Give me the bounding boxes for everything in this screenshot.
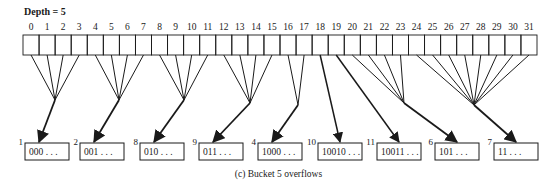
directory-indices: 0123456789101112131415161718192021222324… bbox=[29, 22, 534, 32]
directory-cell bbox=[168, 35, 184, 55]
directory-cell bbox=[344, 35, 360, 55]
cell-index: 28 bbox=[476, 22, 486, 32]
directory-cell bbox=[152, 35, 168, 55]
cell-index: 12 bbox=[219, 22, 229, 32]
directory-cell bbox=[135, 35, 151, 55]
pointer-line bbox=[288, 55, 298, 105]
cell-index: 26 bbox=[444, 22, 454, 32]
cell-index: 2 bbox=[61, 22, 66, 32]
directory-cell bbox=[232, 35, 248, 55]
pointer-line bbox=[119, 55, 143, 100]
bucket-prefix: 000 . . . bbox=[29, 147, 58, 157]
directory-cell bbox=[457, 35, 473, 55]
cell-index: 25 bbox=[428, 22, 438, 32]
bucket-arrow bbox=[272, 105, 298, 142]
directory-cell bbox=[376, 35, 392, 55]
bucket-prefix: 10011 . . . bbox=[381, 147, 419, 157]
directory-cell bbox=[360, 35, 376, 55]
bucket-prefix: 11 . . . bbox=[498, 147, 521, 157]
cell-index: 29 bbox=[492, 22, 502, 32]
cell-index: 14 bbox=[251, 22, 261, 32]
bucket-number: 9 bbox=[193, 137, 198, 147]
bucket-number: 10 bbox=[307, 137, 317, 147]
directory-cell bbox=[71, 35, 87, 55]
directory-cell bbox=[216, 35, 232, 55]
cell-index: 4 bbox=[93, 22, 98, 32]
bucket-prefix: 101 . . . bbox=[439, 147, 468, 157]
pointer-line bbox=[240, 55, 250, 103]
extendible-hashing-diagram: 0123456789101112131415161718192021222324… bbox=[0, 0, 557, 185]
cell-index: 8 bbox=[157, 22, 162, 32]
directory-cell bbox=[264, 35, 280, 55]
directory-cell bbox=[39, 35, 55, 55]
pointer-line bbox=[352, 55, 404, 103]
cell-index: 5 bbox=[109, 22, 114, 32]
bucket-arrow bbox=[154, 100, 184, 142]
bucket-arrow bbox=[213, 103, 250, 142]
directory-cell bbox=[521, 35, 537, 55]
bucket-number: 4 bbox=[252, 137, 257, 147]
pointer-line bbox=[449, 55, 474, 105]
pointer-line bbox=[160, 55, 184, 100]
directory-array bbox=[23, 35, 537, 55]
cell-index: 30 bbox=[508, 22, 518, 32]
directory-cell bbox=[409, 35, 425, 55]
cell-index: 11 bbox=[203, 22, 212, 32]
figure-caption: (c) Bucket 5 overflows bbox=[0, 169, 557, 179]
cell-index: 6 bbox=[125, 22, 130, 32]
pointer-line bbox=[433, 55, 474, 105]
directory-cell bbox=[200, 35, 216, 55]
bucket-prefix: 001 . . . bbox=[84, 147, 113, 157]
cell-index: 15 bbox=[267, 22, 277, 32]
directory-cell bbox=[296, 35, 312, 55]
cell-index: 18 bbox=[315, 22, 325, 32]
cell-index: 31 bbox=[524, 22, 534, 32]
directory-cell bbox=[473, 35, 489, 55]
directory-cell bbox=[184, 35, 200, 55]
directory-cell bbox=[280, 35, 296, 55]
pointer-line bbox=[368, 55, 404, 103]
directory-cell bbox=[119, 35, 135, 55]
bucket-arrow bbox=[474, 105, 516, 142]
directory-cell bbox=[103, 35, 119, 55]
directory-cell bbox=[505, 35, 521, 55]
cell-index: 23 bbox=[396, 22, 406, 32]
cell-index: 9 bbox=[173, 22, 178, 32]
bucket-prefix: 010 . . . bbox=[144, 147, 173, 157]
directory-cell bbox=[392, 35, 408, 55]
cell-index: 7 bbox=[141, 22, 146, 32]
bucket-prefix: 011 . . . bbox=[203, 147, 231, 157]
cell-index: 17 bbox=[299, 22, 309, 32]
directory-cell bbox=[425, 35, 441, 55]
cell-index: 16 bbox=[283, 22, 293, 32]
directory-cell bbox=[55, 35, 71, 55]
pointer-line bbox=[224, 55, 250, 103]
bucket-prefix: 1000 . . . bbox=[262, 147, 295, 157]
bucket-group: 000 . . .1001 . . .2010 . . .8011 . . .9… bbox=[19, 137, 539, 160]
bucket-arrow bbox=[320, 55, 340, 142]
bucket-number: 6 bbox=[429, 137, 434, 147]
directory-cell bbox=[248, 35, 264, 55]
directory-cell bbox=[312, 35, 328, 55]
cell-index: 24 bbox=[412, 22, 422, 32]
bucket-number: 11 bbox=[366, 137, 375, 147]
bucket-number: 2 bbox=[74, 137, 79, 147]
bucket-arrow bbox=[94, 100, 119, 142]
cell-index: 1 bbox=[45, 22, 50, 32]
bucket-number: 8 bbox=[134, 137, 139, 147]
directory-cell bbox=[489, 35, 505, 55]
directory-cell bbox=[23, 35, 39, 55]
bucket-number: 1 bbox=[19, 137, 24, 147]
directory-cell bbox=[87, 35, 103, 55]
bucket-number: 7 bbox=[488, 137, 493, 147]
bucket-prefix: 10010 . . . bbox=[322, 147, 360, 157]
cell-index: 27 bbox=[460, 22, 470, 32]
pointer-line bbox=[298, 55, 304, 105]
cell-index: 20 bbox=[348, 22, 358, 32]
cell-index: 22 bbox=[380, 22, 390, 32]
cell-index: 10 bbox=[187, 22, 197, 32]
cell-index: 21 bbox=[364, 22, 374, 32]
cell-index: 13 bbox=[235, 22, 245, 32]
pointer-line bbox=[474, 55, 529, 105]
directory-cell bbox=[328, 35, 344, 55]
